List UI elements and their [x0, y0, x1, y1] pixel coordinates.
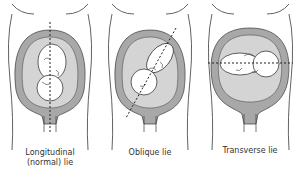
panel-transverse-lie: Transverse lie [200, 0, 300, 179]
label-longitudinal-line2: (normal) lie [0, 158, 100, 168]
panel-longitudinal-lie: Longitudinal (normal) lie [0, 0, 100, 179]
label-oblique: Oblique lie [100, 148, 200, 158]
label-transverse: Transverse lie [200, 146, 300, 156]
panel-oblique-lie: Oblique lie [100, 0, 200, 179]
label-longitudinal-line1: Longitudinal [0, 148, 100, 158]
